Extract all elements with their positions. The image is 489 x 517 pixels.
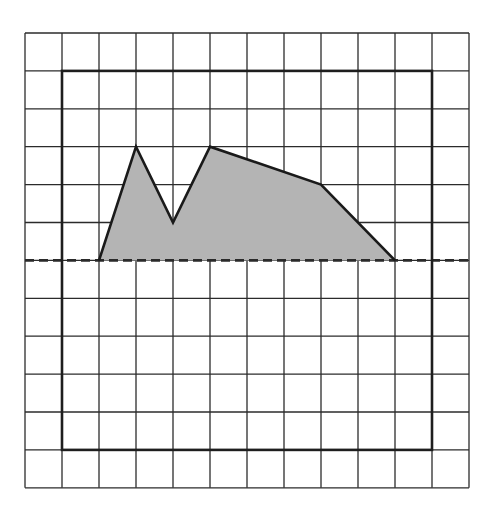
grid-diagram (0, 0, 489, 517)
